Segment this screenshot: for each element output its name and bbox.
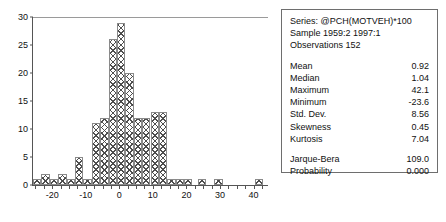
histogram-bars — [33, 17, 268, 185]
histogram-bar — [167, 179, 175, 185]
x-tick-mark — [212, 186, 213, 189]
stat-value: 8.56 — [411, 108, 429, 120]
y-tick-label: 20 — [18, 69, 33, 78]
y-tick-label: 25 — [18, 41, 33, 50]
x-tick-label: -20 — [46, 191, 59, 200]
x-tick-mark — [52, 186, 53, 189]
stat-value: 0.000 — [406, 165, 429, 177]
x-tick-mark — [262, 186, 263, 189]
x-tick-mark — [245, 186, 246, 189]
y-tick-label: 5 — [23, 153, 33, 162]
x-tick-mark — [128, 186, 129, 189]
histogram-bar — [117, 23, 125, 185]
x-tick-mark — [69, 186, 70, 189]
statistic-row: Std. Dev.8.56 — [290, 108, 429, 120]
statistics-rows: Mean0.92Median1.04Maximum42.1Minimum-23.… — [290, 60, 429, 145]
histogram-bar — [125, 73, 133, 185]
x-tick-mark — [254, 186, 255, 189]
histogram-chart: 051015202530 -20-10010203040 — [0, 0, 272, 222]
stat-value: 1.04 — [411, 72, 429, 84]
normality-test-rows: Jarque-Bera109.0Probability0.000 — [290, 153, 429, 177]
histogram-bar — [83, 179, 91, 185]
histogram-bar — [75, 157, 83, 185]
x-tick-mark — [86, 186, 87, 189]
statistic-row: Maximum42.1 — [290, 84, 429, 96]
x-tick-mark — [111, 186, 112, 189]
x-tick-mark — [203, 186, 204, 189]
x-tick-label: 40 — [249, 191, 259, 200]
test-row: Jarque-Bera109.0 — [290, 153, 429, 165]
x-tick-mark — [35, 186, 36, 189]
stat-value: 0.45 — [411, 121, 429, 133]
histogram-bar — [58, 174, 66, 185]
x-tick-label: -10 — [79, 191, 92, 200]
y-tick-label: 30 — [18, 13, 33, 22]
stat-label: Minimum — [290, 96, 327, 108]
y-tick-label: 15 — [18, 97, 33, 106]
histogram-bar — [67, 179, 75, 185]
x-tick-mark — [161, 186, 162, 189]
x-tick-label: 0 — [117, 191, 122, 200]
histogram-bar — [134, 118, 142, 185]
statistic-row: Mean0.92 — [290, 60, 429, 72]
histogram-bar — [198, 179, 206, 185]
stat-label: Std. Dev. — [290, 108, 326, 120]
y-tick-label: 10 — [18, 125, 33, 134]
histogram-bar — [109, 39, 117, 185]
stat-value: 0.92 — [411, 60, 429, 72]
histogram-bar — [255, 179, 263, 185]
histogram-bar — [142, 118, 150, 185]
x-tick-label: 30 — [215, 191, 225, 200]
x-tick-mark — [144, 186, 145, 189]
stats-spacer-top — [290, 52, 429, 60]
x-tick-mark — [228, 186, 229, 189]
stat-value: 42.1 — [411, 84, 429, 96]
x-tick-mark — [77, 186, 78, 189]
stat-label: Maximum — [290, 84, 329, 96]
x-tick-mark — [195, 186, 196, 189]
test-row: Probability0.000 — [290, 165, 429, 177]
series-label: Series: @PCH(MOTVEH)*100 — [290, 15, 429, 27]
stat-label: Kurtosis — [290, 133, 323, 145]
histogram-bar — [92, 123, 100, 185]
x-tick-mark — [220, 186, 221, 189]
descriptive-statistics-panel: Series: @PCH(MOTVEH)*100 Sample 1959:2 1… — [281, 9, 438, 173]
stat-label: Jarque-Bera — [290, 153, 340, 165]
x-tick-label: 10 — [148, 191, 158, 200]
histogram-bar — [100, 118, 108, 185]
stat-label: Skewness — [290, 121, 331, 133]
histogram-bar — [184, 179, 192, 185]
stat-value: 7.04 — [411, 133, 429, 145]
stat-value: 109.0 — [406, 153, 429, 165]
x-tick-mark — [153, 186, 154, 189]
statistic-row: Skewness0.45 — [290, 121, 429, 133]
x-tick-mark — [119, 186, 120, 189]
x-tick-mark — [170, 186, 171, 189]
histogram-bar — [33, 179, 41, 185]
histogram-bar — [214, 179, 222, 185]
stat-label: Mean — [290, 60, 313, 72]
histogram-bar — [41, 174, 49, 185]
stat-label: Probability — [290, 165, 332, 177]
x-axis-ticks: -20-10010203040 — [32, 186, 268, 206]
x-tick-label: 20 — [181, 191, 191, 200]
x-tick-mark — [178, 186, 179, 189]
x-tick-mark — [103, 186, 104, 189]
histogram-bar — [50, 179, 58, 185]
x-tick-mark — [44, 186, 45, 189]
histogram-bar — [151, 112, 159, 185]
histogram-bar — [176, 179, 184, 185]
observations-label: Observations 152 — [290, 39, 429, 51]
statistic-row: Median1.04 — [290, 72, 429, 84]
sample-label: Sample 1959:2 1997:1 — [290, 27, 429, 39]
stat-value: -23.6 — [408, 96, 429, 108]
x-tick-mark — [237, 186, 238, 189]
x-tick-mark — [94, 186, 95, 189]
statistic-row: Minimum-23.6 — [290, 96, 429, 108]
x-tick-mark — [186, 186, 187, 189]
statistic-row: Kurtosis7.04 — [290, 133, 429, 145]
stats-spacer-bottom — [290, 145, 429, 153]
x-tick-mark — [136, 186, 137, 189]
histogram-bar — [159, 112, 167, 185]
x-tick-mark — [61, 186, 62, 189]
